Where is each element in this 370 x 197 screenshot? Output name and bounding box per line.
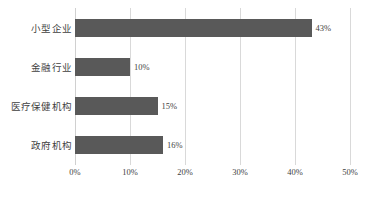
x-tick-label: 50% [342, 168, 358, 177]
x-tick-label: 20% [177, 168, 193, 177]
category-label: 政府机构 [0, 126, 72, 165]
category-label-text: 政府机构 [31, 138, 72, 152]
x-tick-label: 0% [69, 168, 80, 177]
value-axis: 0% 10% 20% 30% 40% 50% [0, 168, 370, 184]
bar[interactable] [75, 19, 312, 37]
bar-value-label: 43% [316, 23, 332, 32]
bar-row: 43% [75, 8, 350, 47]
category-label: 金融行业 [0, 47, 72, 86]
category-label-text: 小型企业 [31, 21, 72, 35]
x-tick-label: 30% [232, 168, 248, 177]
bar-row: 16% [75, 126, 350, 165]
x-tick-label: 40% [287, 168, 303, 177]
bar-row: 15% [75, 87, 350, 126]
bar-value-label: 10% [134, 63, 150, 72]
x-tick-label: 10% [122, 168, 138, 177]
bar[interactable] [75, 58, 130, 76]
bar-chart: 小型企业 金融行业 医疗保健机构 政府机构 43% 10% 15% 16% [0, 0, 370, 197]
category-label-text: 金融行业 [31, 60, 72, 74]
bar[interactable] [75, 97, 158, 115]
bar[interactable] [75, 136, 163, 154]
bar-value-label: 15% [162, 102, 178, 111]
category-label: 小型企业 [0, 8, 72, 47]
category-label-text: 医疗保健机构 [11, 99, 72, 113]
category-label: 医疗保健机构 [0, 87, 72, 126]
bars-layer: 43% 10% 15% 16% [75, 8, 350, 165]
bar-value-label: 16% [167, 141, 183, 150]
bar-row: 10% [75, 47, 350, 86]
